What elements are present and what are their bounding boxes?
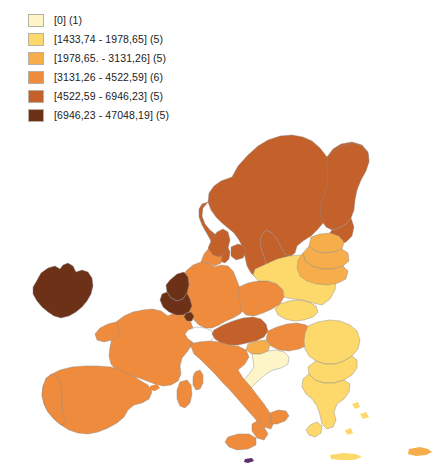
region-italy-sardinia	[177, 380, 192, 408]
region-italy-sicily	[225, 434, 256, 450]
legend-item: [3131,26 - 4522,59] (6)	[28, 68, 169, 87]
legend-label-class-1: [1433,74 - 1978,65] (5)	[54, 33, 163, 46]
region-cyprus	[408, 447, 432, 456]
legend-label-class-2: [1978,65. - 3131,26] (5)	[54, 52, 166, 65]
legend-swatch-class-2	[28, 52, 44, 65]
legend-label-class-4: [4522,59 - 6946,23] (5)	[54, 90, 163, 103]
legend-swatch-class-0	[28, 14, 44, 27]
region-ireland	[33, 263, 93, 318]
legend-item: [1978,65. - 3131,26] (5)	[28, 49, 169, 68]
legend-item: [4522,59 - 6946,23] (5)	[28, 87, 169, 106]
choropleth-map-figure: [0] (1) [1433,74 - 1978,65] (5) [1978,65…	[0, 0, 446, 475]
region-malta	[244, 458, 254, 463]
legend-swatch-class-1	[28, 33, 44, 46]
map-legend: [0] (1) [1433,74 - 1978,65] (5) [1978,65…	[28, 11, 169, 125]
region-denmark-islands	[231, 244, 246, 260]
legend-label-class-5: [6946,23 - 47048,19] (5)	[54, 109, 169, 122]
region-greece-peloponnese	[306, 422, 322, 437]
legend-label-class-3: [3131,26 - 4522,59] (6)	[54, 71, 163, 84]
region-france-corsica	[193, 370, 203, 390]
legend-swatch-class-4	[28, 90, 44, 103]
legend-item: [0] (1)	[28, 11, 169, 30]
legend-swatch-class-3	[28, 71, 44, 84]
region-greece-islands	[345, 402, 369, 435]
region-slovakia	[275, 300, 318, 321]
legend-swatch-class-5	[28, 109, 44, 122]
region-greece-crete	[330, 453, 362, 460]
legend-item: [1433,74 - 1978,65] (5)	[28, 30, 169, 49]
region-italy-heel	[270, 410, 289, 424]
legend-label-class-0: [0] (1)	[54, 14, 82, 27]
legend-item: [6946,23 - 47048,19] (5)	[28, 106, 169, 125]
region-finland	[320, 143, 369, 230]
